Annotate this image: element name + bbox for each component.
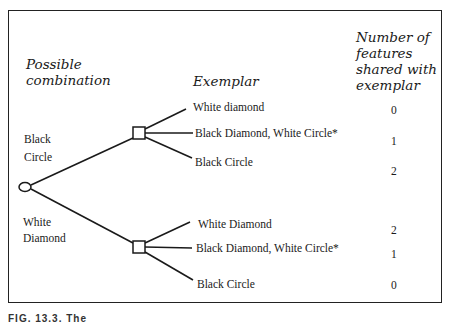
exemplar-label: Black Circle bbox=[197, 278, 255, 291]
combination-line: Circle bbox=[24, 148, 52, 166]
shared-count: 2 bbox=[391, 165, 397, 177]
combination-white-diamond: White Diamond bbox=[23, 214, 66, 246]
exemplar-label: Black Circle bbox=[195, 156, 253, 169]
header-line: Number of bbox=[356, 29, 437, 45]
combination-line: White bbox=[23, 214, 66, 230]
exemplar-label: Black Diamond, White Circle* bbox=[196, 242, 339, 255]
shared-count: 1 bbox=[391, 135, 397, 147]
shared-count: 0 bbox=[391, 104, 397, 116]
shared-count: 1 bbox=[391, 248, 397, 260]
header-line: Possible bbox=[26, 56, 111, 72]
lower-decision-node-icon bbox=[133, 241, 145, 253]
upper-decision-node-icon bbox=[133, 127, 145, 139]
header-exemplar: Exemplar bbox=[193, 73, 259, 89]
header-features-shared: Number of features shared with exemplar bbox=[356, 29, 437, 93]
exemplar-label: White Diamond bbox=[198, 218, 272, 231]
header-possible-combination: Possible combination bbox=[26, 56, 111, 88]
figure-caption: FIG. 13.3. The bbox=[8, 313, 87, 323]
combination-line: Black bbox=[24, 130, 52, 148]
header-line: shared with bbox=[356, 61, 437, 77]
header-line: combination bbox=[26, 72, 111, 88]
header-line: features bbox=[356, 45, 437, 61]
combination-black-circle: Black Circle bbox=[24, 130, 52, 166]
exemplar-label: Black Diamond, White Circle* bbox=[195, 127, 338, 140]
shared-count: 2 bbox=[391, 224, 397, 236]
shared-count: 0 bbox=[391, 279, 397, 291]
exemplar-label: White diamond bbox=[193, 101, 264, 114]
header-line: exemplar bbox=[356, 77, 437, 93]
combination-line: Diamond bbox=[23, 230, 66, 246]
root-node-icon bbox=[19, 183, 31, 192]
